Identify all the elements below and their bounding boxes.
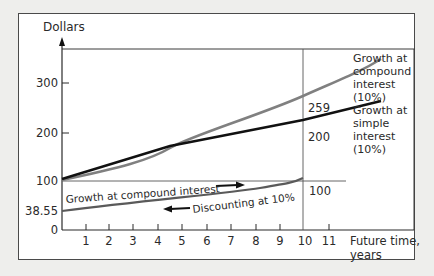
x-tick-7: 7 [227, 234, 234, 248]
x-axis-label-line1: Future time, [350, 234, 420, 248]
x-tick-1: 1 [82, 234, 89, 248]
x-tick-4: 4 [154, 234, 161, 248]
y-tick-300: 300 [36, 76, 58, 90]
y-tick-100: 100 [36, 174, 58, 188]
legend-simple-line4: (10%) [353, 143, 386, 156]
legend-compound-line3: interest [353, 78, 396, 91]
legend-simple-line1: Growth at [353, 104, 408, 117]
y-axis-arrow-icon [59, 37, 65, 46]
compound-interest-curve [62, 59, 381, 180]
legend-simple-line3: interest [353, 130, 396, 143]
legend-compound-line1: Growth at [353, 52, 408, 65]
legend-compound: Growth at compound interest (10%) [353, 52, 411, 104]
left-arrow-icon [163, 206, 190, 213]
y-tick-0: 0 [51, 223, 58, 237]
chart-svg: Dollars 300 200 100 38.55 0 1 2 3 4 5 6 … [0, 0, 434, 276]
x-tick-10: 10 [298, 234, 313, 248]
x-tick-5: 5 [178, 234, 185, 248]
x-axis-label-line2: years [350, 248, 382, 262]
legend-compound-line2: compound [353, 65, 411, 78]
x-tick-8: 8 [252, 234, 259, 248]
simple-interest-line [62, 101, 381, 179]
right-arrow-icon [216, 182, 245, 189]
value-200-label: 200 [308, 130, 330, 144]
x-tick-3: 3 [129, 234, 136, 248]
legend-simple: Growth at simple interest (10%) [353, 104, 408, 156]
y-ticks [62, 83, 69, 133]
x-tick-2: 2 [105, 234, 112, 248]
x-ticks [86, 224, 329, 230]
x-tick-6: 6 [203, 234, 210, 248]
x-tick-11: 11 [322, 234, 337, 248]
value-259-label: 259 [308, 101, 330, 115]
legend-simple-line2: simple [353, 117, 390, 130]
x-tick-9: 9 [276, 234, 283, 248]
value-100-label: 100 [309, 184, 331, 198]
y-tick-38-55: 38.55 [25, 204, 58, 218]
y-axis-label: Dollars [43, 20, 85, 34]
legend-compound-line4: (10%) [353, 91, 386, 104]
y-tick-200: 200 [36, 126, 58, 140]
